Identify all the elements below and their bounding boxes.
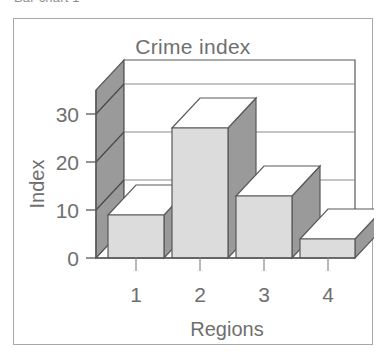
y-tick-label-20: 20 (56, 151, 79, 174)
y-tick-label-10: 10 (56, 199, 79, 222)
x-tick-label-2: 2 (194, 283, 206, 306)
bar-chart-plot: 0 10 20 30 Index 1 2 3 4 (14, 19, 374, 346)
x-tick-label-3: 3 (258, 283, 270, 306)
y-tick-label-0: 0 (67, 247, 79, 270)
bar-4-front (300, 239, 355, 258)
chart-frame: Crime index 0 10 20 30 Index (13, 18, 373, 345)
figure-caption-text: Bar chart 1 (14, 0, 214, 5)
bar-2-front (172, 128, 228, 258)
bar-3-front (236, 196, 292, 258)
y-tick-label-30: 30 (56, 103, 79, 126)
x-axis-title: Regions (190, 318, 263, 340)
bar-1-front (108, 215, 164, 258)
figure-caption: Bar chart 1 (14, 0, 214, 5)
x-tick-label-4: 4 (322, 283, 334, 306)
x-tick-label-1: 1 (130, 283, 142, 306)
y-axis-title: Index (26, 160, 48, 209)
